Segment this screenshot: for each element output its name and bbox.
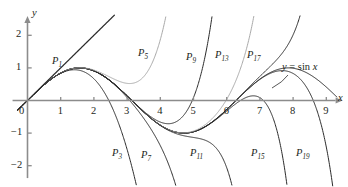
curve-label-P3: P3 (112, 148, 122, 161)
curve-label-P9: P9 (186, 52, 196, 65)
curve-P5 (18, 17, 166, 110)
x-tick-4: 4 (157, 106, 162, 117)
function-label-leader-line (272, 75, 288, 88)
x-tick-9: 9 (323, 106, 328, 117)
function-label-sin: y = sin x (282, 62, 317, 73)
curve-label-P5: P5 (138, 48, 148, 61)
curve-P11 (18, 68, 232, 185)
y-tick-2: 2 (16, 29, 21, 40)
curve-label-P7: P7 (141, 150, 151, 163)
axes-group (13, 16, 343, 178)
curve-P15 (18, 68, 287, 184)
y-tick--2: −2 (11, 160, 22, 171)
curve-P19 (18, 68, 333, 186)
curve-label-P15: P15 (251, 148, 265, 161)
curve-P3 (18, 70, 137, 185)
curve-label-P17: P17 (247, 50, 261, 63)
curve-label-P1: P1 (52, 56, 62, 69)
x-tick-8: 8 (290, 106, 295, 117)
y-tick-1: 1 (16, 62, 21, 73)
y-tick--1: −1 (11, 127, 22, 138)
x-tick-6: 6 (224, 106, 229, 117)
x-tick-3: 3 (124, 106, 129, 117)
curve-P1 (18, 15, 115, 110)
origin-tick-label: 0 (19, 106, 24, 117)
curve-P7 (18, 68, 176, 185)
curve-P9 (18, 17, 212, 124)
y-axis-label: y (32, 8, 37, 19)
x-tick-2: 2 (91, 106, 96, 117)
x-tick-5: 5 (191, 106, 196, 117)
x-axis-label: x (338, 93, 343, 104)
curve-label-P13: P13 (215, 50, 229, 63)
curve-label-P11: P11 (190, 148, 203, 161)
x-tick-7: 7 (257, 106, 262, 117)
curve-label-P19: P19 (296, 148, 310, 161)
x-tick-1: 1 (58, 106, 63, 117)
figure-taylor-sine-approximations: x y 0 123456789 21−1−2 P1P5P9P13P17P3P7P… (0, 0, 348, 187)
